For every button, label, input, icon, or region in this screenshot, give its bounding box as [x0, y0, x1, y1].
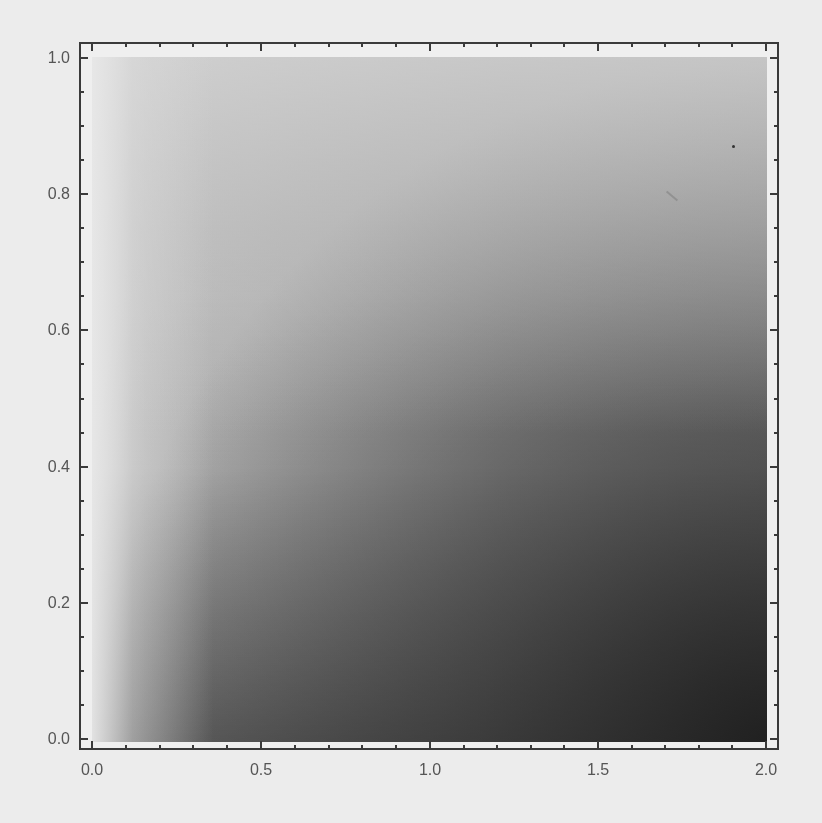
y-major-tick [79, 602, 88, 604]
x-minor-tick [226, 745, 228, 750]
y-major-tick-right [770, 466, 779, 468]
y-minor-tick [79, 568, 84, 570]
speck-artifact [732, 145, 735, 148]
y-major-tick [79, 466, 88, 468]
x-minor-tick [361, 745, 363, 750]
y-minor-tick-right [774, 159, 779, 161]
x-minor-tick [395, 745, 397, 750]
x-major-tick-top [429, 42, 431, 51]
x-minor-tick [496, 745, 498, 750]
x-major-tick-top [260, 42, 262, 51]
x-minor-tick [698, 745, 700, 750]
y-minor-tick [79, 500, 84, 502]
y-minor-tick-right [774, 500, 779, 502]
x-minor-tick-top [328, 42, 330, 47]
x-minor-tick [530, 745, 532, 750]
x-minor-tick-top [192, 42, 194, 47]
y-major-tick-right [770, 329, 779, 331]
x-tick-label: 1.0 [419, 761, 441, 779]
y-minor-tick-right [774, 534, 779, 536]
y-minor-tick-right [774, 704, 779, 706]
y-minor-tick [79, 670, 84, 672]
y-major-tick-right [770, 602, 779, 604]
x-minor-tick-top [731, 42, 733, 47]
x-minor-tick [125, 745, 127, 750]
y-minor-tick [79, 636, 84, 638]
x-minor-tick-top [631, 42, 633, 47]
y-major-tick-right [770, 738, 779, 740]
x-tick-label: 0.0 [81, 761, 103, 779]
x-minor-tick-top [463, 42, 465, 47]
x-major-tick [260, 741, 262, 750]
x-minor-tick [463, 745, 465, 750]
x-minor-tick [731, 745, 733, 750]
y-minor-tick [79, 398, 84, 400]
y-major-tick [79, 193, 88, 195]
x-minor-tick-top [496, 42, 498, 47]
y-minor-tick-right [774, 398, 779, 400]
x-tick-label: 2.0 [755, 761, 777, 779]
y-minor-tick-right [774, 227, 779, 229]
x-minor-tick [664, 745, 666, 750]
y-minor-tick [79, 363, 84, 365]
x-minor-tick-top [395, 42, 397, 47]
plot-area [92, 57, 767, 742]
y-minor-tick-right [774, 568, 779, 570]
x-minor-tick-top [294, 42, 296, 47]
y-minor-tick [79, 159, 84, 161]
x-minor-tick-top [159, 42, 161, 47]
x-minor-tick [631, 745, 633, 750]
x-minor-tick [328, 745, 330, 750]
x-minor-tick [159, 745, 161, 750]
y-minor-tick-right [774, 363, 779, 365]
y-tick-label: 0.6 [48, 321, 70, 339]
y-major-tick [79, 738, 88, 740]
x-minor-tick-top [361, 42, 363, 47]
y-tick-label: 0.4 [48, 458, 70, 476]
y-minor-tick-right [774, 261, 779, 263]
y-major-tick-right [770, 193, 779, 195]
y-minor-tick [79, 261, 84, 263]
x-major-tick [597, 741, 599, 750]
y-minor-tick [79, 91, 84, 93]
x-major-tick-top [597, 42, 599, 51]
x-major-tick [765, 741, 767, 750]
x-minor-tick-top [698, 42, 700, 47]
y-major-tick [79, 57, 88, 59]
y-minor-tick-right [774, 636, 779, 638]
density-plot: 0.0 0.5 1.0 1.5 2.0 1.0 0.8 0.6 0.4 0.2 … [0, 0, 822, 823]
gradient-layer-left [92, 57, 767, 742]
x-minor-tick-top [563, 42, 565, 47]
y-minor-tick [79, 125, 84, 127]
y-minor-tick [79, 227, 84, 229]
y-minor-tick [79, 534, 84, 536]
x-minor-tick-top [530, 42, 532, 47]
y-major-tick-right [770, 57, 779, 59]
x-minor-tick [192, 745, 194, 750]
y-minor-tick-right [774, 295, 779, 297]
y-minor-tick [79, 704, 84, 706]
x-minor-tick-top [664, 42, 666, 47]
y-tick-label: 0.2 [48, 594, 70, 612]
x-minor-tick-top [226, 42, 228, 47]
x-minor-tick-top [125, 42, 127, 47]
y-tick-label: 0.0 [48, 730, 70, 748]
x-major-tick-top [91, 42, 93, 51]
y-minor-tick [79, 432, 84, 434]
y-minor-tick-right [774, 125, 779, 127]
x-minor-tick [563, 745, 565, 750]
x-major-tick [429, 741, 431, 750]
x-major-tick-top [765, 42, 767, 51]
x-tick-label: 0.5 [250, 761, 272, 779]
y-major-tick [79, 329, 88, 331]
x-tick-label: 1.5 [587, 761, 609, 779]
y-tick-label: 0.8 [48, 185, 70, 203]
y-minor-tick-right [774, 670, 779, 672]
y-tick-label: 1.0 [48, 49, 70, 67]
y-minor-tick [79, 295, 84, 297]
y-minor-tick-right [774, 91, 779, 93]
y-minor-tick-right [774, 432, 779, 434]
x-minor-tick [294, 745, 296, 750]
x-major-tick [91, 741, 93, 750]
